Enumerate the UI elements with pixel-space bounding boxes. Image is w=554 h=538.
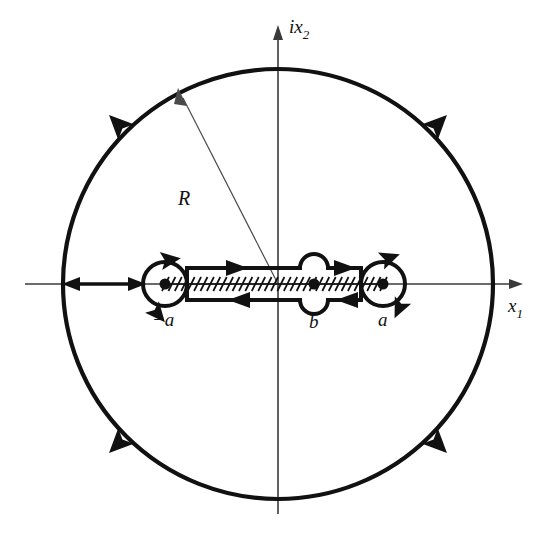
complex-plane-contour-diagram: x1 ix2 R: [0, 0, 554, 538]
branch-point-dot-minus-a: [160, 279, 171, 290]
contour-arrow-right-circle-top: [378, 246, 403, 270]
y-axis-label: ix2: [289, 16, 310, 42]
contour-arrow-lower-left: [228, 292, 250, 308]
radius-marker-group: R: [174, 88, 278, 284]
contour-arrow-lower-right: [336, 292, 358, 308]
circle-arrow-lower-right: [422, 428, 455, 461]
x-axis-label-subscript: 1: [516, 306, 523, 321]
branch-cut-group: [162, 277, 387, 291]
negative-axis-connector-group: [62, 277, 146, 291]
circle-arrow-upper-left: [101, 107, 134, 140]
label-b: b: [309, 311, 319, 332]
x-axis-label: x1: [507, 295, 523, 321]
branch-point-dot-a: [378, 279, 389, 290]
branch-point-dot-b: [309, 279, 320, 290]
y-axis-arrowhead: [273, 25, 283, 40]
contour-arrow-upper-right: [334, 260, 356, 276]
x-axis-arrowhead: [509, 279, 523, 289]
circle-arrow-lower-left: [101, 428, 134, 461]
figure-root: x1 ix2 R: [0, 0, 554, 538]
radius-line-R: [183, 98, 278, 284]
contour-arrow-upper-left: [226, 260, 248, 276]
label-a: a: [378, 309, 388, 330]
y-axis-label-subscript: 2: [303, 27, 310, 42]
circle-arrow-upper-right: [422, 107, 455, 140]
label-minus-a: −a: [152, 309, 174, 330]
radius-label-R: R: [177, 187, 190, 209]
